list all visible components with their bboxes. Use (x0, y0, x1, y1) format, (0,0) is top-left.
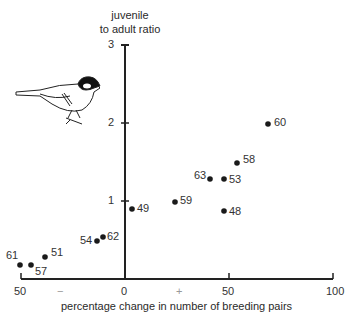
bird-illustration-icon (16, 77, 100, 124)
x-axis-title: percentage change in number of breeding … (0, 300, 353, 312)
point-label-49: 49 (137, 202, 149, 214)
point-label-53: 53 (229, 173, 241, 185)
x-tick-0: 0 (121, 285, 127, 297)
point-label-58: 58 (243, 153, 255, 165)
point-label-48: 48 (229, 205, 241, 217)
point-label-54: 54 (80, 234, 92, 246)
point-label-60: 60 (274, 116, 286, 128)
point-label-63: 63 (194, 169, 206, 181)
x-sign-negative: − (57, 285, 63, 297)
x-sign-positive: + (176, 285, 182, 297)
plot-area (0, 0, 353, 324)
x-tick-minus50: 50 (14, 285, 26, 297)
y-tick-1: 1 (108, 194, 114, 206)
y-tick-3: 3 (108, 38, 114, 50)
point-label-61: 61 (6, 249, 18, 261)
point-label-57: 57 (35, 265, 47, 277)
x-tick-100: 100 (326, 285, 344, 297)
point-label-62: 62 (107, 230, 119, 242)
point-label-59: 59 (180, 194, 192, 206)
y-tick-2: 2 (108, 116, 114, 128)
x-tick-50: 50 (222, 285, 234, 297)
point-label-51: 51 (51, 246, 63, 258)
